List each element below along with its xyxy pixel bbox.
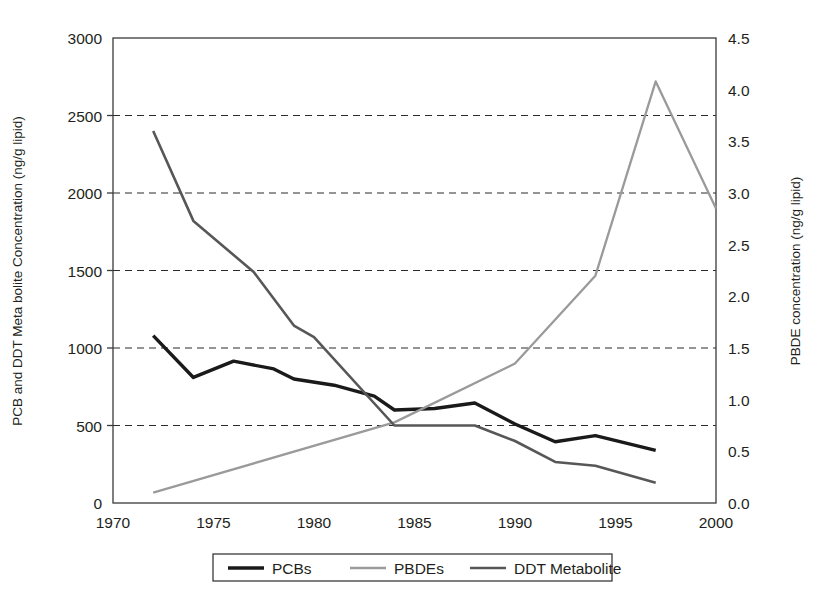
y-axis-right-ticklabels: 0.00.51.01.52.02.53.03.54.04.5	[728, 30, 750, 512]
y-axis-left-ticklabel: 0	[93, 495, 102, 512]
y-axis-right-ticklabel: 1.0	[728, 392, 750, 409]
y-axis-right-ticklabel: 2.0	[728, 288, 750, 305]
y-axis-left-ticklabel: 500	[76, 418, 102, 435]
series-line-pcbs	[153, 336, 656, 451]
y-axis-right-ticklabel: 4.0	[728, 82, 750, 99]
x-axis-ticklabel: 2000	[699, 514, 734, 531]
y-axis-right-ticklabel: 4.5	[728, 30, 750, 47]
legend: PCBsPBDEsDDT Metabolite	[213, 554, 621, 581]
y-axis-left-ticklabel: 2500	[68, 108, 103, 125]
y-axis-right-ticklabel: 2.5	[728, 237, 750, 254]
chart-svg: 050010001500200025003000 0.00.51.01.52.0…	[0, 0, 822, 606]
y-axis-left-title: PCB and DDT Meta bolite Concentration (n…	[10, 116, 25, 426]
y-axis-left-ticklabel: 1000	[68, 340, 103, 357]
legend-items: PCBsPBDEsDDT Metabolite	[228, 560, 621, 577]
y-axis-left-ticklabel: 1500	[68, 263, 103, 280]
gridlines-group	[113, 116, 716, 426]
y-axis-left-ticklabels: 050010001500200025003000	[68, 30, 103, 512]
x-axis-ticklabel: 1970	[96, 514, 131, 531]
x-axis-ticklabel: 1980	[297, 514, 332, 531]
x-axis-ticklabel: 1975	[196, 514, 230, 531]
y-axis-right-title: PBDE concentration (ng/g lipid)	[788, 177, 803, 365]
y-axis-right-ticklabel: 0.5	[728, 443, 750, 460]
x-axis-ticklabel: 1990	[498, 514, 533, 531]
x-axis-ticklabel: 1995	[598, 514, 632, 531]
y-axis-left-ticklabel: 2000	[68, 185, 103, 202]
y-axis-right-ticklabel: 0.0	[728, 495, 750, 512]
series-group	[153, 81, 716, 492]
legend-label-ddt-metabolite: DDT Metabolite	[514, 560, 621, 577]
chart-figure: 050010001500200025003000 0.00.51.01.52.0…	[0, 0, 822, 606]
y-axis-right-ticklabel: 3.0	[728, 185, 750, 202]
series-line-pbdes	[153, 81, 716, 492]
x-axis-ticklabel: 1985	[397, 514, 431, 531]
legend-label-pbdes: PBDEs	[394, 560, 444, 577]
legend-label-pcbs: PCBs	[272, 560, 312, 577]
y-axis-right-ticklabel: 3.5	[728, 133, 750, 150]
y-axis-left-ticklabel: 3000	[68, 30, 103, 47]
y-axis-left-ticks	[107, 116, 113, 426]
x-axis-ticklabels: 1970197519801985199019952000	[96, 514, 734, 531]
series-line-ddt-metabolite	[153, 131, 656, 483]
y-axis-right-ticklabel: 1.5	[728, 340, 750, 357]
